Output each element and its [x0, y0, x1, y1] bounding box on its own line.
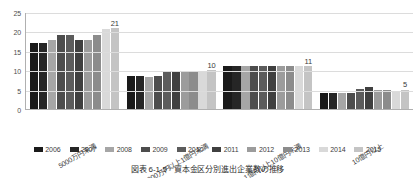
chart-plot-area: 0510152025 2110115 5000万円未満5000万円以上1億円未満…	[0, 6, 415, 114]
legend-swatch	[177, 147, 186, 152]
bar[interactable]: 5	[401, 90, 409, 109]
bar[interactable]	[268, 66, 276, 109]
caption-title: 資本金区分別進出企業数の推移	[174, 165, 285, 174]
bar[interactable]	[223, 66, 231, 109]
legend-swatch	[212, 147, 221, 152]
bar[interactable]	[383, 90, 391, 109]
legend-label: 2011	[224, 146, 239, 153]
legend-item[interactable]: 2007	[70, 146, 97, 153]
legend-swatch	[354, 147, 363, 152]
bar-value-label: 5	[403, 81, 407, 89]
bar[interactable]	[338, 93, 346, 109]
bar-set: 11	[223, 13, 312, 109]
bar-value-label: 21	[111, 20, 119, 28]
bar-set: 21	[30, 13, 119, 109]
legend-item[interactable]: 2009	[141, 146, 168, 153]
bar[interactable]: 21	[111, 28, 119, 109]
legend-label: 2008	[117, 146, 132, 153]
bar[interactable]: 10	[207, 70, 215, 109]
legend-swatch	[34, 147, 43, 152]
plot-canvas: 2110115	[25, 13, 413, 110]
bar[interactable]	[277, 66, 285, 109]
legend-label: 2010	[188, 146, 203, 153]
gridline	[26, 71, 413, 72]
bar[interactable]	[48, 40, 56, 109]
legend-swatch	[283, 147, 292, 152]
y-axis-tick-label: 0	[17, 107, 21, 114]
legend-label: 2015	[366, 146, 381, 153]
legend-item[interactable]: 2012	[247, 146, 274, 153]
caption-number: 図表 6-1-5	[131, 165, 167, 174]
bar-group: 10	[123, 13, 220, 109]
bar[interactable]	[84, 40, 92, 109]
legend-item[interactable]: 2010	[177, 146, 204, 153]
legend-swatch	[105, 147, 114, 152]
bar-groups: 2110115	[26, 13, 413, 109]
bar[interactable]	[241, 66, 249, 109]
bar[interactable]	[75, 40, 83, 109]
y-axis-tick-label: 15	[13, 48, 21, 55]
legend-item[interactable]: 2013	[283, 146, 310, 153]
figure-caption: 図表 6-1-5資本金区分別進出企業数の推移	[0, 163, 415, 174]
y-axis: 0510152025	[0, 6, 24, 114]
chart-legend: 2006200720082009201020112012201320142015	[0, 146, 415, 153]
legend-item[interactable]: 2008	[105, 146, 132, 153]
bar-value-label: 11	[304, 58, 312, 66]
legend-label: 2007	[81, 146, 96, 153]
bar[interactable]	[232, 66, 240, 109]
bar[interactable]	[250, 66, 258, 109]
bar-set: 5	[320, 13, 409, 109]
y-axis-tick-label: 5	[17, 87, 21, 94]
legend-label: 2014	[330, 146, 345, 153]
bar[interactable]	[102, 29, 110, 109]
bar[interactable]	[329, 93, 337, 109]
bar[interactable]	[286, 66, 294, 109]
legend-swatch	[70, 147, 79, 152]
bar[interactable]	[30, 43, 38, 109]
bar[interactable]	[127, 76, 135, 109]
bar-group: 11	[220, 13, 317, 109]
legend-swatch	[319, 147, 328, 152]
bar[interactable]	[320, 93, 328, 109]
y-axis-tick-label: 10	[13, 68, 21, 75]
bar-set: 10	[127, 13, 216, 109]
bar[interactable]	[259, 66, 267, 109]
bar[interactable]: 11	[304, 66, 312, 109]
bar-group: 21	[26, 13, 123, 109]
gridline	[26, 13, 413, 14]
y-axis-tick-label: 25	[13, 10, 21, 17]
legend-item[interactable]: 2015	[354, 146, 381, 153]
bar[interactable]	[356, 89, 364, 109]
bar-group: 5	[316, 13, 413, 109]
legend-label: 2009	[152, 146, 167, 153]
bar-value-label: 10	[207, 62, 215, 70]
gridline	[26, 52, 413, 53]
legend-label: 2006	[45, 146, 60, 153]
legend-item[interactable]: 2014	[319, 146, 346, 153]
gridline	[26, 32, 413, 33]
bar[interactable]	[374, 90, 382, 109]
figure-container: 0510152025 2110115 5000万円未満5000万円以上1億円未満…	[0, 0, 415, 178]
bar[interactable]	[145, 77, 153, 109]
bar[interactable]	[295, 66, 303, 109]
legend-swatch	[247, 147, 256, 152]
legend-item[interactable]: 2011	[212, 146, 238, 153]
bar[interactable]	[136, 76, 144, 109]
bar[interactable]	[39, 43, 47, 109]
legend-label: 2013	[295, 146, 310, 153]
gridline	[26, 91, 413, 92]
y-axis-tick-label: 20	[13, 29, 21, 36]
bar[interactable]	[154, 76, 162, 109]
bar[interactable]	[392, 91, 400, 109]
bar[interactable]	[347, 93, 355, 109]
legend-item[interactable]: 2006	[34, 146, 61, 153]
legend-swatch	[141, 147, 150, 152]
legend-label: 2012	[259, 146, 274, 153]
